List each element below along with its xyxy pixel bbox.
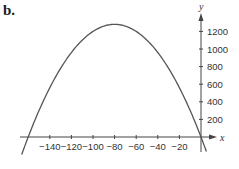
x-tick-label: −80 (107, 141, 123, 152)
x-axis-arrow-icon (209, 135, 217, 140)
x-tick-label: −60 (128, 141, 144, 152)
x-tick-label: −100 (82, 141, 103, 152)
y-tick-label: 200 (207, 114, 223, 125)
x-axis-label: x (219, 132, 225, 143)
x-tick-label: −20 (171, 141, 187, 152)
y-tick-label: 800 (207, 61, 223, 72)
x-tick-label: −140 (39, 141, 60, 152)
y-tick-label: 400 (207, 96, 223, 107)
y-axis-label: y (198, 1, 204, 12)
y-tick-label: 600 (207, 79, 223, 90)
y-axis-arrow-icon (199, 13, 204, 21)
y-tick-label: 1200 (207, 26, 228, 37)
y-tick-label: 1000 (207, 44, 228, 55)
x-tick-label: −120 (61, 141, 82, 152)
parabola-chart: xy−140−120−100−80−60−40−2020040060080010… (0, 0, 239, 169)
x-tick-label: −40 (150, 141, 166, 152)
